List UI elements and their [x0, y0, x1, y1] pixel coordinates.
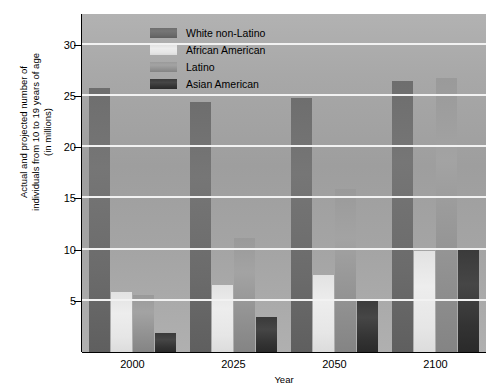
bar	[357, 299, 378, 352]
y-tick-label: 10	[36, 244, 76, 256]
y-tick-mark	[74, 301, 82, 302]
gridline	[82, 145, 486, 147]
x-tick-label: 2100	[396, 358, 476, 370]
plot-area	[82, 14, 486, 352]
x-tick-label: 2000	[93, 358, 173, 370]
bar	[414, 251, 435, 352]
legend-label: African American	[186, 44, 265, 56]
y-tick-mark	[74, 147, 82, 148]
gridline	[82, 196, 486, 198]
legend-label: Asian American	[186, 78, 259, 90]
legend-swatch-icon	[150, 45, 177, 55]
bar	[436, 78, 457, 352]
y-tick-mark	[74, 45, 82, 46]
y-tick-label: 5	[36, 295, 76, 307]
gridline	[82, 248, 486, 250]
y-tick-mark	[74, 96, 82, 97]
x-tick-label: 2050	[295, 358, 375, 370]
bar-chart: Actual and projected number of individua…	[0, 0, 504, 383]
y-tick-mark	[74, 198, 82, 199]
y-tick-label: 30	[36, 39, 76, 51]
bar	[212, 285, 233, 352]
x-tick-label: 2025	[194, 358, 274, 370]
bar	[133, 295, 154, 352]
y-axis-title: Actual and projected number of individua…	[18, 17, 58, 247]
legend-item: White non-Latino	[150, 24, 265, 41]
gridline	[82, 299, 486, 301]
legend-item: Latino	[150, 58, 265, 75]
bar-group	[291, 14, 378, 352]
legend: White non-LatinoAfrican AmericanLatinoAs…	[150, 24, 265, 92]
y-tick-label: 20	[36, 141, 76, 153]
bar	[256, 317, 277, 352]
legend-item: African American	[150, 41, 265, 58]
y-tick-label: 25	[36, 90, 76, 102]
legend-label: White non-Latino	[186, 27, 265, 39]
y-tick-mark	[74, 250, 82, 251]
x-axis-line	[82, 352, 486, 353]
gridline	[82, 94, 486, 96]
bar-group	[392, 14, 479, 352]
bar	[335, 189, 356, 352]
bar	[313, 275, 334, 352]
gridline	[82, 43, 486, 45]
legend-label: Latino	[186, 61, 215, 73]
legend-swatch-icon	[150, 28, 177, 38]
legend-swatch-icon	[150, 62, 177, 72]
bar	[155, 333, 176, 352]
y-tick-label: 15	[36, 192, 76, 204]
bar	[190, 102, 211, 352]
bar	[291, 98, 312, 352]
bar	[234, 238, 255, 352]
legend-item: Asian American	[150, 75, 265, 92]
x-axis-title: Year	[82, 374, 486, 383]
bar	[392, 81, 413, 352]
bar	[89, 88, 110, 352]
legend-swatch-icon	[150, 79, 177, 89]
